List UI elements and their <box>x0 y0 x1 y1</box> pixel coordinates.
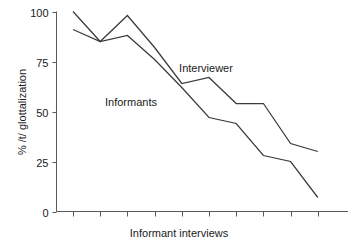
x-axis-title: Informant interviews <box>130 227 229 239</box>
series-annotations: InterviewerInformants <box>105 62 233 108</box>
y-tick-label-0: 0 <box>42 207 48 219</box>
chart-container: 0255075100 Informant interviews % /t/ gl… <box>0 0 358 244</box>
y-tick-label-100: 100 <box>30 7 48 19</box>
series-line-informants <box>73 30 318 198</box>
y-tick-label-75: 75 <box>36 57 48 69</box>
series-annotation-informants: Informants <box>105 96 157 108</box>
line-chart: 0255075100 Informant interviews % /t/ gl… <box>0 0 358 244</box>
y-tick-label-25: 25 <box>36 157 48 169</box>
y-axis-tick-labels: 0255075100 <box>30 7 48 219</box>
y-tick-label-50: 50 <box>36 107 48 119</box>
series-line-interviewer <box>73 12 318 152</box>
y-axis-title: % /t/ glottalization <box>16 69 28 155</box>
series-annotation-interviewer: Interviewer <box>179 62 233 74</box>
y-axis-ticks <box>53 13 57 213</box>
x-axis-ticks <box>74 212 319 217</box>
